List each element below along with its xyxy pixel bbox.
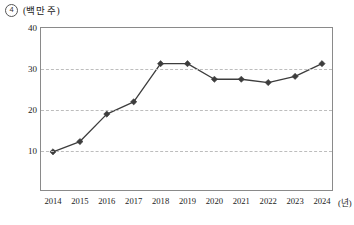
- y-axis-tick-label: 20: [28, 105, 37, 115]
- data-point-marker: [292, 73, 298, 79]
- y-axis-tick-label: 40: [28, 23, 37, 33]
- x-axis-tick-label: 2014: [44, 196, 61, 206]
- plot-area: 1020304020142015201620172018201920202021…: [40, 27, 333, 191]
- figure-number-badge: 4: [5, 4, 18, 17]
- x-axis-tick-label: 2016: [98, 196, 115, 206]
- data-point-marker: [184, 61, 190, 67]
- data-point-marker: [238, 76, 244, 82]
- chart-figure: 4 (백만 주) 1020304020142015201620172018201…: [0, 0, 354, 225]
- gridline: [41, 110, 332, 111]
- y-axis-tick-label: 10: [28, 146, 37, 156]
- data-point-marker: [265, 79, 271, 85]
- data-point-marker: [211, 76, 217, 82]
- x-axis-tick-label: 2018: [152, 196, 169, 206]
- figure-header: 4 (백만 주): [5, 3, 60, 17]
- x-axis-tick-label: 2019: [179, 196, 196, 206]
- y-axis-tick-label: 30: [28, 64, 37, 74]
- x-axis-tick-label: 2020: [206, 196, 223, 206]
- x-axis-unit-label: (년): [338, 196, 352, 208]
- x-axis-tick-label: 2021: [233, 196, 250, 206]
- x-axis-tick-label: 2022: [260, 196, 277, 206]
- x-axis-tick-label: 2017: [125, 196, 142, 206]
- gridline: [41, 69, 332, 70]
- data-point-marker: [319, 61, 325, 67]
- x-axis-tick-label: 2024: [313, 196, 330, 206]
- y-axis-unit-label: (백만 주): [23, 3, 60, 17]
- series-line: [53, 64, 322, 152]
- x-axis-tick-label: 2015: [71, 196, 88, 206]
- gridline: [41, 151, 332, 152]
- x-axis-tick-label: 2023: [287, 196, 304, 206]
